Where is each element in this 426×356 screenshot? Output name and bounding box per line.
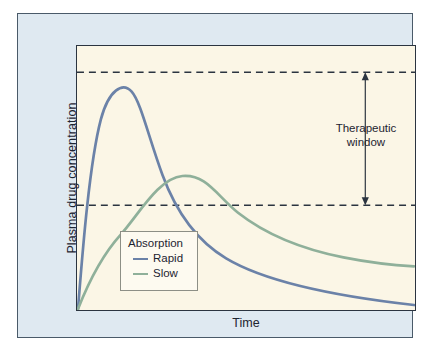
legend-label-slow: Slow bbox=[153, 266, 178, 281]
y-axis-title: Plasma drug concentration bbox=[62, 45, 82, 311]
legend-item-rapid: Rapid bbox=[133, 251, 197, 266]
legend: Absorption Rapid Slow bbox=[120, 231, 198, 291]
legend-swatch-rapid bbox=[133, 258, 148, 260]
legend-title: Absorption bbox=[128, 236, 197, 250]
therapeutic-window-label: Therapeutic window bbox=[314, 122, 418, 149]
legend-swatch-slow bbox=[133, 273, 148, 275]
therapeutic-window-line-1: Therapeutic bbox=[314, 122, 418, 136]
legend-label-rapid: Rapid bbox=[153, 251, 183, 266]
x-axis-title: Time bbox=[76, 316, 416, 330]
therapeutic-window-line-2: window bbox=[314, 136, 418, 150]
pharmacokinetics-figure: Plasma drug concentration Time Therapeut… bbox=[0, 0, 426, 356]
figure-panel: Plasma drug concentration Time Therapeut… bbox=[17, 13, 413, 338]
legend-item-slow: Slow bbox=[133, 266, 197, 281]
